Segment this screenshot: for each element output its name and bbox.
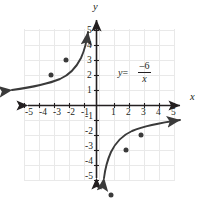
y-tick-label-neg2: -2 [85,127,93,137]
y-tick-label-5: 5 [87,26,92,36]
point-3-neg2 [139,133,144,138]
point-neg2-3 [64,58,69,63]
grid-lines [25,29,175,181]
point-1-neg6 [109,193,114,198]
y-tick-label-3: 3 [87,56,92,66]
x-tick-label-3: 3 [141,108,146,118]
y-tick-label-neg3: -3 [85,142,93,152]
y-tick-label-1: 1 [87,86,92,96]
point-neg3-2 [49,73,54,78]
coordinate-plane-svg [0,0,207,204]
y-tick-label-neg1: -1 [85,112,93,122]
x-tick-label-neg5: -5 [25,108,33,118]
graph-figure: y x -5 -4 -3 -2 -1 1 2 3 4 5 5 4 3 2 1 -… [0,0,207,204]
equation-annotation: y= –6 x [118,61,151,84]
y-axis-label: y [93,2,98,13]
y-tick-label-2: 2 [87,71,92,81]
equation-equals-sign: = [122,67,128,78]
x-tick-label-4: 4 [156,108,161,118]
x-tick-label-neg2: -2 [67,108,75,118]
point-2-neg3 [124,148,129,153]
curve-branch-right [104,120,180,178]
x-tick-label-neg3: -3 [53,108,61,118]
y-tick-label-neg5: -5 [85,172,93,182]
axis-lines [28,20,180,178]
equation-numerator: –6 [139,61,151,72]
x-tick-label-1: 1 [111,108,116,118]
x-tick-label-5: 5 [171,108,176,118]
x-tick-label-2: 2 [126,108,131,118]
y-tick-label-4: 4 [87,41,92,51]
x-axis-label: x [190,92,195,103]
equation-denominator: x [142,74,146,85]
equation-fraction: –6 x [138,61,151,84]
x-tick-label-neg4: -4 [39,108,47,118]
y-tick-label-neg4: -4 [85,157,93,167]
equation-left-side: y= [118,67,128,78]
